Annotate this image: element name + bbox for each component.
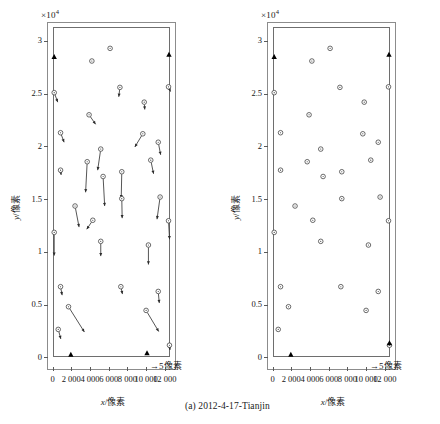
x-axis-tick xyxy=(90,367,91,371)
gcp-point-marker xyxy=(119,284,124,289)
gcp-point-marker xyxy=(85,159,90,164)
gcp-point-marker xyxy=(98,239,103,244)
gcp-point-marker xyxy=(321,174,326,179)
gcp-point-marker xyxy=(73,204,78,209)
y-axis-tick-label: 1 xyxy=(7,247,42,256)
y-axis-tick-label: 1.5 xyxy=(7,195,42,204)
gcp-point-marker xyxy=(318,147,323,152)
y-axis-tick xyxy=(264,305,268,306)
gcp-point-marker xyxy=(305,159,310,164)
gcp-point-marker xyxy=(339,169,344,174)
gcp-point-marker xyxy=(339,196,344,201)
displacement-vector xyxy=(147,312,158,331)
gcp-point-marker xyxy=(278,284,283,289)
gcp-point-marker xyxy=(52,230,57,235)
gcp-point-marker xyxy=(293,204,298,209)
x-axis-tick xyxy=(366,367,367,371)
gcp-point-marker xyxy=(366,243,371,248)
gcp-point-marker xyxy=(386,85,391,90)
y-axis-tick-label: 1.5 xyxy=(227,195,262,204)
control-point-triangle-marker xyxy=(68,352,73,357)
control-point-triangle-marker xyxy=(288,352,293,357)
control-point-triangle-marker xyxy=(387,340,392,345)
displacement-vector xyxy=(60,289,63,295)
x-axis-tick xyxy=(109,367,110,371)
displacement-vector xyxy=(121,201,124,218)
y-axis-tick xyxy=(44,357,48,358)
y-axis-tick-label: 2.5 xyxy=(7,89,42,98)
gcp-point-marker xyxy=(58,130,63,135)
displacement-vector xyxy=(59,332,62,339)
displacement-vector xyxy=(120,174,123,198)
y-axis-tick-label: 0.5 xyxy=(7,300,42,309)
displacement-vector xyxy=(55,95,58,102)
gcp-point-marker xyxy=(156,140,161,145)
gcp-point-marker xyxy=(148,158,153,163)
gcp-point-marker xyxy=(338,85,343,90)
gcp-point-marker xyxy=(58,168,63,173)
y-axis-tick-label: 0.5 xyxy=(227,300,262,309)
gcp-point-marker xyxy=(87,113,92,118)
gcp-point-marker xyxy=(286,304,291,309)
control-point-triangle-marker xyxy=(166,52,171,57)
gcp-point-marker xyxy=(144,308,149,313)
y-axis-tick xyxy=(264,199,268,200)
displacement-vector xyxy=(99,244,102,256)
gcp-point-marker xyxy=(318,239,323,244)
y-axis-tick xyxy=(264,357,268,358)
displacement-vector xyxy=(151,162,154,173)
displacement-vector xyxy=(157,294,160,303)
gcp-point-marker xyxy=(307,113,312,118)
displacement-vector xyxy=(135,136,142,147)
displacement-vector xyxy=(147,247,150,264)
panel-left-displacement: ×104 →5像素 x/像素 y/像素 00.511.522.5302 0004… xyxy=(0,0,220,424)
displacement-vector xyxy=(156,199,160,219)
y-axis-tick-label: 2 xyxy=(227,142,262,151)
control-point-triangle-marker xyxy=(386,52,391,57)
gcp-point-marker xyxy=(376,289,381,294)
displacement-vector xyxy=(168,223,171,239)
gcp-point-marker xyxy=(119,169,124,174)
x-axis-tick-label: 12 000 xyxy=(148,375,182,384)
gcp-point-marker xyxy=(311,218,316,223)
x-axis-tick xyxy=(273,367,274,371)
displacement-vector xyxy=(75,208,79,227)
control-point-triangle-marker xyxy=(144,350,149,355)
gcp-point-marker xyxy=(98,147,103,152)
gcp-point-marker xyxy=(166,85,171,90)
displacement-vector xyxy=(70,309,85,332)
y-axis-tick-label: 2 xyxy=(7,142,42,151)
y-axis-tick-label: 0 xyxy=(7,353,42,362)
displacement-vector xyxy=(143,105,146,110)
gcp-point-marker xyxy=(156,289,161,294)
gcp-point-marker xyxy=(276,327,281,332)
gcp-point-marker xyxy=(108,46,113,51)
y-axis-tick-label: 2.5 xyxy=(227,89,262,98)
y-axis-tick xyxy=(264,252,268,253)
gcp-point-marker xyxy=(90,59,95,64)
displacement-vector xyxy=(84,164,87,192)
gcp-point-marker xyxy=(101,174,106,179)
displacement-vector xyxy=(120,289,123,294)
y-axis-tick xyxy=(44,146,48,147)
x-axis-tick-label: 12 000 xyxy=(368,375,402,384)
figure-caption: (a) 2012-4-17-Tianjin xyxy=(185,402,270,412)
gcp-point-marker xyxy=(272,230,277,235)
gcp-point-marker xyxy=(278,130,283,135)
y-axis-tick-label: 0 xyxy=(227,353,262,362)
gcp-point-marker xyxy=(362,100,367,105)
gcp-point-marker xyxy=(141,131,146,136)
figure-gcp-displacement: ×104 →5像素 x/像素 y/像素 00.511.522.5302 0004… xyxy=(0,0,440,424)
y-axis-tick xyxy=(264,146,268,147)
gcp-point-marker xyxy=(66,304,71,309)
gcp-point-marker xyxy=(368,158,373,163)
x-axis-tick xyxy=(310,367,311,371)
gcp-point-marker xyxy=(58,284,63,289)
gcp-point-marker xyxy=(376,140,381,145)
x-axis-tick xyxy=(329,367,330,371)
gcp-point-marker xyxy=(339,284,344,289)
y-axis-tick xyxy=(44,41,48,42)
gcp-point-marker xyxy=(166,218,171,223)
y-axis-tick-label: 3 xyxy=(7,36,42,45)
x-axis-tick xyxy=(385,367,386,371)
